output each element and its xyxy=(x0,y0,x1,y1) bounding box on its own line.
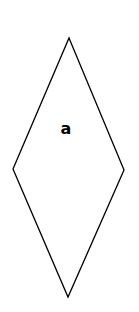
diagram-canvas: a xyxy=(0,0,139,312)
rhombus-label: a xyxy=(61,119,72,138)
rhombus-shape xyxy=(13,38,124,297)
